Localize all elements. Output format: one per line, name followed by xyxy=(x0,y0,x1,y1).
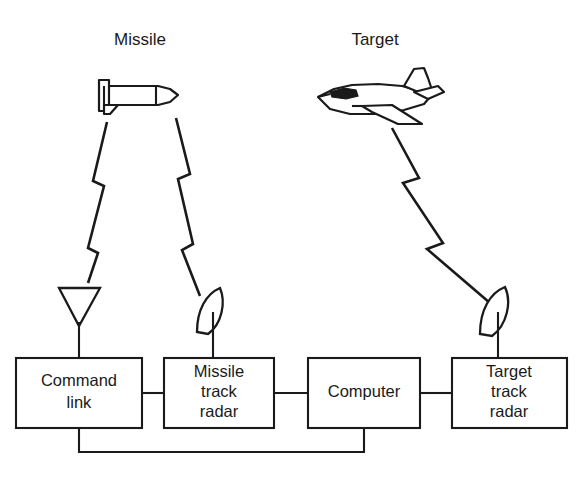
signal-command-link-to-missile xyxy=(88,122,107,283)
block-target-track-radar[interactable]: Target track radar xyxy=(452,358,567,428)
aircraft-icon xyxy=(318,68,444,124)
block-command-link-line1: Command xyxy=(41,371,117,389)
block-target-track-radar-line1: Target xyxy=(486,362,532,380)
block-missile-track-radar[interactable]: Missile track radar xyxy=(164,358,274,428)
block-missile-track-radar-line3: radar xyxy=(200,402,239,420)
block-command-link-line2: link xyxy=(67,393,93,411)
block-target-track-radar-line2: track xyxy=(491,382,528,400)
block-command-link[interactable]: Command link xyxy=(16,358,142,428)
signal-target-to-target-track-radar xyxy=(392,128,490,303)
command-link-antenna xyxy=(59,288,100,358)
missile-track-dish xyxy=(197,288,223,358)
block-missile-track-radar-line1: Missile xyxy=(194,362,244,380)
connector-computer-to-command-link-feedback xyxy=(79,428,364,452)
label-target: Target xyxy=(351,30,399,49)
block-missile-track-radar-line2: track xyxy=(201,382,238,400)
block-target-track-radar-line3: radar xyxy=(490,402,529,420)
block-computer-line1: Computer xyxy=(328,382,401,400)
diagram-svg: Missile Target xyxy=(0,0,587,478)
block-computer[interactable]: Computer xyxy=(308,358,420,428)
signal-missile-to-missile-track-radar xyxy=(176,118,200,296)
label-missile: Missile xyxy=(114,30,166,49)
missile-icon xyxy=(99,80,178,114)
diagram-canvas: Missile Target xyxy=(0,0,587,478)
